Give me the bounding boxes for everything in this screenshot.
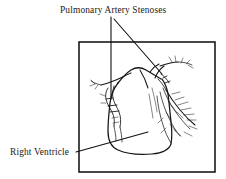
left-pa-twig-a [91, 80, 95, 84]
leader-line-stenosis-right [114, 19, 162, 74]
diagram-border [79, 42, 215, 172]
right-twig-d [181, 108, 191, 110]
right-pa-upper-branch [178, 62, 192, 65]
right-twig-e [184, 114, 194, 115]
left-stenosis-band-c [112, 117, 118, 118]
right-twig-h [172, 106, 177, 113]
figure-root: Pulmonary Artery Stenoses Right Ventricl… [0, 0, 226, 179]
right-twig-p [184, 132, 192, 136]
right-twig-k [170, 124, 176, 131]
ventricle-surface-vessel-a [152, 88, 157, 112]
left-stenosis-band-d [113, 122, 119, 123]
right-pa-twig-b [175, 56, 176, 62]
right-ventricle-outline [108, 79, 172, 154]
label-right-ventricle: Right Ventricle [10, 147, 69, 157]
right-twig-c [178, 102, 188, 105]
right-descending-branch-edge [163, 88, 190, 129]
left-twig-d [100, 94, 105, 96]
left-pulmonary-artery [101, 73, 131, 85]
ventricle-surface-vessel-b [149, 94, 153, 118]
left-pa-twig-c [95, 85, 98, 89]
label-pulmonary-artery-stenoses: Pulmonary Artery Stenoses [60, 5, 167, 15]
right-twig-l [174, 130, 181, 136]
left-stenosis-vessel-edge [113, 86, 121, 127]
right-twig-a [172, 92, 180, 94]
left-pa-twig-b [90, 84, 95, 86]
left-stenosis-waist [106, 98, 113, 99]
right-pa-twig-a [169, 57, 172, 62]
right-pa-twig-e [188, 65, 193, 68]
right-pulmonary-artery [160, 62, 178, 66]
leader-line-right-ventricle [76, 132, 148, 152]
infundibulum-fold [140, 70, 148, 88]
left-distal-vessel [114, 126, 116, 141]
diagram-canvas: Pulmonary Artery Stenoses Right Ventricl… [0, 0, 226, 179]
right-twig-o [189, 126, 197, 129]
right-twig-b [175, 97, 184, 100]
